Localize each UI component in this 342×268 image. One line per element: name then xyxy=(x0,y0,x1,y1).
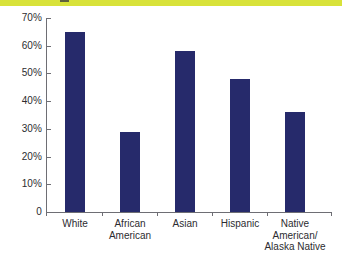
cropped-title-fragment xyxy=(60,0,69,2)
y-tick-label-50: 50% xyxy=(6,67,42,78)
y-tick-mark-60 xyxy=(46,46,51,47)
page-header-band xyxy=(0,0,342,6)
y-tick-label-20: 20% xyxy=(6,151,42,162)
y-tick-label-70: 70% xyxy=(6,12,42,23)
bar-white xyxy=(65,32,85,212)
y-tick-label-10: 10% xyxy=(6,178,42,189)
x-tick-2 xyxy=(157,212,158,216)
y-axis-line xyxy=(46,18,47,212)
y-tick-label-0: 0 xyxy=(6,206,42,217)
y-tick-mark-20 xyxy=(46,157,51,158)
bar-hispanic xyxy=(230,79,250,212)
y-tick-label-30: 30% xyxy=(6,123,42,134)
x-tick-5 xyxy=(331,212,332,216)
y-tick-mark-10 xyxy=(46,184,51,185)
bar-native-american-alaska-native xyxy=(285,112,305,212)
bar-asian xyxy=(175,51,195,212)
y-tick-mark-40 xyxy=(46,101,51,102)
y-tick-label-40: 40% xyxy=(6,95,42,106)
chart-figure: 70% 60% 50% 40% 30% 20% 10% 0 xyxy=(0,0,342,268)
x-tick-4 xyxy=(267,212,268,216)
x-category-label-native-american-alaska-native: Native American/ Alaska Native xyxy=(259,218,331,253)
x-tick-0 xyxy=(46,212,47,216)
y-tick-mark-70 xyxy=(46,18,51,19)
x-tick-1 xyxy=(102,212,103,216)
plot-area: 70% 60% 50% 40% 30% 20% 10% 0 xyxy=(46,18,332,212)
bar-african-american xyxy=(120,132,140,212)
x-axis-line xyxy=(46,212,332,213)
x-tick-3 xyxy=(212,212,213,216)
y-tick-mark-50 xyxy=(46,73,51,74)
y-tick-label-60: 60% xyxy=(6,40,42,51)
y-tick-mark-30 xyxy=(46,129,51,130)
